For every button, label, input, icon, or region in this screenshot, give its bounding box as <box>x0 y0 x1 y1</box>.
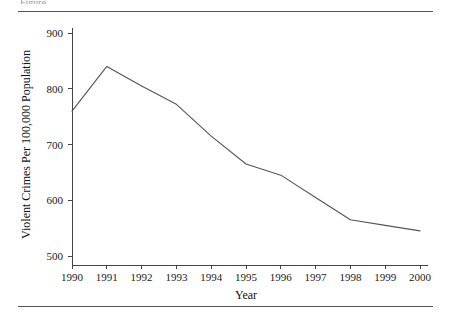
y-tick-label: 700 <box>47 139 64 151</box>
x-tick-label: 1997 <box>305 271 328 283</box>
x-axis-ticks: 1990199119921993199419951996199719981999… <box>61 265 432 283</box>
x-tick-label: 1999 <box>374 271 397 283</box>
y-tick-label: 600 <box>47 194 64 206</box>
y-axis-title: Violent Crimes Per 100,000 Population <box>19 50 33 239</box>
x-tick-label: 1994 <box>200 271 223 283</box>
y-tick-label: 500 <box>47 250 64 262</box>
y-tick-label: 900 <box>47 27 64 39</box>
line-chart: 500600700800900 199019911992199319941995… <box>0 0 449 322</box>
y-axis-ticks: 500600700800900 <box>47 27 73 262</box>
x-tick-label: 1995 <box>235 271 258 283</box>
figure-container: Figure 500600700800900 19901991199219931… <box>0 0 449 322</box>
data-series-line <box>72 66 420 230</box>
x-tick-label: 1993 <box>165 271 188 283</box>
x-tick-label: 2000 <box>409 271 432 283</box>
x-tick-label: 1996 <box>270 271 293 283</box>
x-tick-label: 1990 <box>61 271 84 283</box>
y-tick-label: 800 <box>47 83 64 95</box>
axis-lines <box>72 28 428 265</box>
x-axis-title: Year <box>235 288 257 302</box>
x-tick-label: 1992 <box>131 271 153 283</box>
x-tick-label: 1991 <box>96 271 118 283</box>
x-tick-label: 1998 <box>339 271 362 283</box>
